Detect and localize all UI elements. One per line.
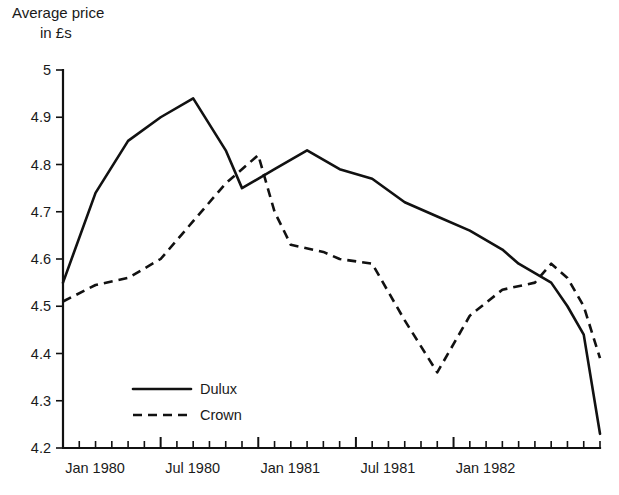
- y-tick-label: 4.8: [31, 157, 51, 173]
- legend-label-dulux: Dulux: [200, 381, 238, 397]
- line-chart-plot: 54.94.84.74.64.54.44.34.2 Jan 1980Jul 19…: [0, 0, 619, 495]
- y-tick-label: 4.5: [31, 298, 51, 314]
- y-tick-label: 4.3: [31, 393, 51, 409]
- y-tick-label: 4.2: [31, 440, 51, 456]
- chart-legend: DuluxCrown: [133, 381, 242, 423]
- x-axis-labels: Jan 1980Jul 1980Jan 1981Jul 1981Jan 1982: [65, 460, 515, 476]
- y-tick-label: 4.9: [31, 109, 51, 125]
- y-tick-label: 4.6: [31, 251, 51, 267]
- x-tick-label: Jan 1981: [260, 460, 320, 476]
- data-series: [63, 98, 600, 433]
- y-tick-label: 5: [43, 62, 51, 78]
- y-tick-label: 4.4: [31, 346, 51, 362]
- axis-frame: [63, 70, 600, 448]
- axis-lines: [63, 70, 600, 448]
- legend-label-crown: Crown: [200, 407, 242, 423]
- x-tick-label: Jan 1982: [456, 460, 516, 476]
- x-tick-label: Jul 1981: [360, 460, 415, 476]
- y-axis-ticks: 54.94.84.74.64.54.44.34.2: [31, 62, 63, 456]
- x-tick-label: Jan 1980: [65, 460, 125, 476]
- x-axis-ticks: [63, 437, 600, 448]
- series-line-dulux: [63, 98, 600, 433]
- y-tick-label: 4.7: [31, 204, 51, 220]
- x-tick-label: Jul 1980: [165, 460, 220, 476]
- chart-container: Average price in £s 54.94.84.74.64.54.44…: [0, 0, 619, 495]
